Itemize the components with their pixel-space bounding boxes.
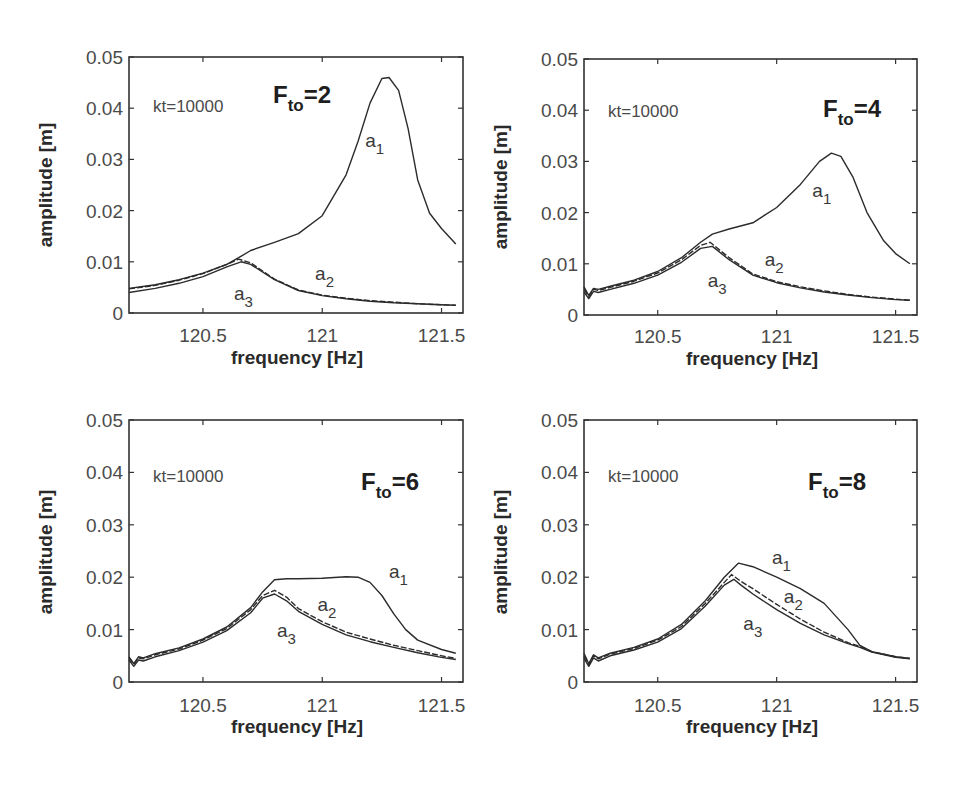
curve-label-a2: a2 — [315, 263, 334, 290]
curve-label-a3: a3 — [708, 270, 727, 297]
curve-a1 — [584, 153, 910, 295]
curve-label-a1: a1 — [772, 547, 791, 574]
curve-label-a1: a1 — [389, 561, 408, 588]
y-tick-label: 0.04 — [86, 98, 123, 119]
y-tick-label: 0.02 — [86, 567, 123, 588]
y-axis-label: amplitude [m] — [35, 123, 56, 248]
subplot-ft0-4: 00.010.020.030.040.05120.5121121.5a1a2a3… — [490, 49, 919, 369]
x-tick-label: 120.5 — [634, 326, 682, 347]
curve-label-a3: a3 — [743, 613, 762, 640]
curve-label-a1: a1 — [365, 130, 384, 157]
force-title: Fto=8 — [808, 468, 866, 502]
x-tick-label: 120.5 — [634, 695, 682, 716]
x-axis-label: frequency [Hz] — [231, 716, 363, 737]
y-tick-label: 0.03 — [541, 515, 578, 536]
curve-label-a3: a3 — [234, 283, 253, 310]
subplot-ft0-8: 00.010.020.030.040.05120.5121121.5a1a2a3… — [490, 410, 919, 737]
x-tick-label: 121.5 — [872, 695, 920, 716]
y-tick-label: 0 — [112, 303, 123, 324]
y-axis-label: amplitude [m] — [35, 490, 56, 615]
x-axis-label: frequency [Hz] — [686, 716, 818, 737]
curve-a3 — [129, 262, 456, 306]
kt-annotation: kt=10000 — [153, 97, 223, 116]
x-tick-label: 121.5 — [418, 695, 466, 716]
figure: 00.010.020.030.040.05120.5121121.5a1a2a3… — [0, 0, 962, 786]
x-axis-label: frequency [Hz] — [231, 347, 363, 368]
x-axis-label: frequency [Hz] — [686, 348, 818, 369]
axes-frame — [584, 420, 917, 682]
y-tick-label: 0.03 — [86, 149, 123, 170]
x-tick-label: 121 — [761, 695, 793, 716]
curve-label-a1: a1 — [812, 180, 831, 207]
y-tick-label: 0.01 — [541, 254, 578, 275]
force-title: Fto=2 — [273, 81, 331, 115]
x-tick-label: 121 — [761, 326, 793, 347]
kt-annotation: kt=10000 — [608, 102, 678, 121]
force-title: Fto=6 — [361, 468, 419, 502]
x-tick-label: 121.5 — [872, 326, 920, 347]
kt-annotation: kt=10000 — [153, 467, 223, 486]
curve-label-a2: a2 — [784, 586, 803, 613]
x-tick-label: 120.5 — [179, 695, 227, 716]
y-tick-label: 0.02 — [86, 201, 123, 222]
y-tick-label: 0.05 — [86, 410, 123, 431]
curve-label-a3: a3 — [277, 620, 296, 647]
y-tick-label: 0.03 — [86, 515, 123, 536]
subplot-ft0-2: 00.010.020.030.040.05120.5121121.5a1a2a3… — [35, 47, 465, 368]
x-tick-label: 121 — [306, 325, 338, 346]
y-axis-label: amplitude [m] — [490, 125, 511, 250]
y-tick-label: 0.05 — [86, 47, 123, 68]
y-tick-label: 0 — [567, 672, 578, 693]
curve-label-a2: a2 — [317, 594, 336, 621]
y-tick-label: 0.01 — [86, 620, 123, 641]
curve-label-a2: a2 — [765, 249, 784, 276]
y-axis-label: amplitude [m] — [490, 490, 511, 615]
y-tick-label: 0.01 — [86, 252, 123, 273]
y-tick-label: 0.02 — [541, 567, 578, 588]
axes-frame — [129, 420, 463, 682]
y-tick-label: 0.01 — [541, 620, 578, 641]
y-tick-label: 0.03 — [541, 151, 578, 172]
curve-a2 — [129, 590, 456, 664]
y-tick-label: 0.05 — [541, 49, 578, 70]
y-tick-label: 0.04 — [86, 462, 123, 483]
y-tick-label: 0.04 — [541, 100, 578, 121]
x-tick-label: 121.5 — [418, 325, 466, 346]
curve-a3 — [584, 246, 910, 300]
y-tick-label: 0.04 — [541, 462, 578, 483]
kt-annotation: kt=10000 — [608, 467, 678, 486]
y-tick-label: 0.02 — [541, 203, 578, 224]
y-tick-label: 0.05 — [541, 410, 578, 431]
subplot-ft0-6: 00.010.020.030.040.05120.5121121.5a1a2a3… — [35, 410, 465, 737]
y-tick-label: 0 — [567, 305, 578, 326]
x-tick-label: 120.5 — [179, 325, 227, 346]
curve-a2 — [129, 259, 456, 305]
x-tick-label: 121 — [306, 695, 338, 716]
y-tick-label: 0 — [112, 672, 123, 693]
force-title: Fto=4 — [823, 95, 882, 129]
